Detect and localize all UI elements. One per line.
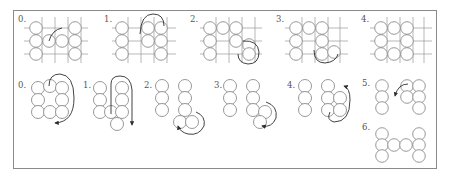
beads xyxy=(30,22,82,61)
beads xyxy=(376,80,426,115)
beads xyxy=(299,80,347,117)
bottom-panel-5-label: 5. xyxy=(362,78,370,88)
beads xyxy=(32,80,69,119)
bottom-panel-3-label: 3. xyxy=(214,80,222,90)
bottom-panel-0-label: 0. xyxy=(18,80,26,90)
bottom-panel-4-label: 4. xyxy=(287,80,295,90)
top-panel-2-label: 2. xyxy=(190,14,198,24)
top-panel-1: 1. xyxy=(104,14,176,63)
beading-diagram: 0. 1. 2. xyxy=(0,0,451,182)
beads xyxy=(156,80,199,129)
beads xyxy=(116,22,168,61)
bottom-panel-1-label: 1. xyxy=(83,80,91,90)
beads xyxy=(376,128,426,163)
top-panel-0: 0. xyxy=(18,14,88,63)
top-panel-0-label: 0. xyxy=(18,14,26,24)
bottom-panel-5: 5. xyxy=(362,78,425,114)
bottom-panel-4: 4. xyxy=(287,80,350,123)
top-panel-3-label: 3. xyxy=(276,14,284,24)
bottom-panel-1: 1. xyxy=(83,76,132,131)
top-panel-3: 3. xyxy=(276,14,348,63)
top-panel-4-label: 4. xyxy=(361,14,369,24)
bottom-panel-6: 6. xyxy=(362,122,425,162)
top-panel-4: 4. xyxy=(361,14,432,63)
top-panel-1-label: 1. xyxy=(104,14,112,24)
bottom-panel-2: 2. xyxy=(144,80,204,135)
bottom-panel-6-label: 6. xyxy=(362,122,370,132)
bottom-panel-3: 3. xyxy=(214,80,276,129)
bottom-panel-2-label: 2. xyxy=(144,80,152,90)
top-panel-2: 2. xyxy=(190,14,262,64)
beads xyxy=(224,80,272,129)
bottom-panel-0: 0. xyxy=(18,74,74,123)
